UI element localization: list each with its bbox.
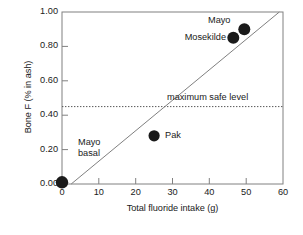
x-axis-ticks — [99, 178, 246, 184]
annotation-maximum-safe-level: maximum safe level — [167, 92, 248, 103]
annotation-mosekilde: Mosekilde — [126, 32, 226, 43]
data-point-mayo-basal — [56, 176, 68, 188]
figure-scatter-plot: Bone F (% in ash) Total fluoride intake … — [0, 0, 303, 235]
annotation-mayo-basal-line2: basal — [78, 148, 100, 159]
annotation-mayo: Mayo — [208, 15, 230, 26]
data-point-mayo — [238, 23, 250, 35]
annotation-mayo-basal: Mayo basal — [78, 137, 100, 159]
annotation-mayo-basal-line1: Mayo — [78, 137, 100, 148]
data-point-mosekilde — [227, 32, 239, 44]
annotation-pak: Pak — [165, 130, 181, 141]
y-axis-ticks — [62, 46, 68, 149]
data-point-pak — [149, 130, 160, 141]
